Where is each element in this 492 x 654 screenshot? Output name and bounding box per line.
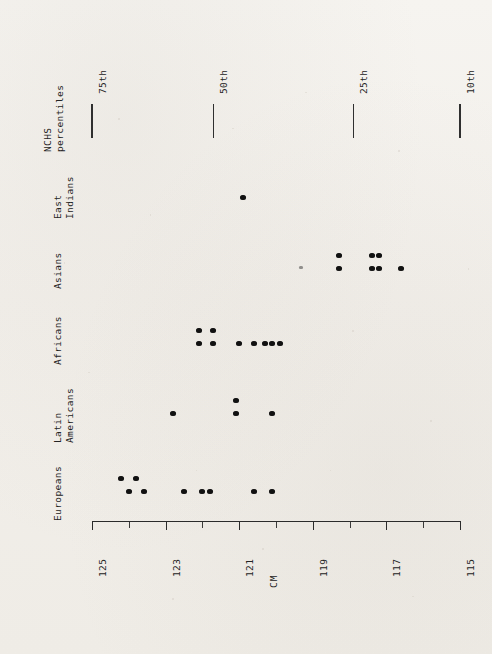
reference-group-label: NCHS [42, 128, 53, 152]
cm-axis-tick [202, 521, 203, 528]
data-point [336, 253, 342, 258]
group-label-east-indians: Indians [64, 176, 75, 219]
data-point [251, 341, 257, 346]
group-label-europeans: Europeans [52, 466, 63, 521]
cm-axis-tick [276, 521, 277, 528]
data-point [299, 266, 303, 270]
paper-speck [172, 598, 174, 600]
data-point [269, 411, 275, 416]
data-point [141, 489, 147, 494]
cm-axis-tick [386, 521, 387, 530]
group-label-latin-americans: Latin [52, 412, 63, 443]
percentile-marker-label: 10th [465, 70, 476, 94]
percentile-marker-line [213, 104, 214, 138]
data-point [210, 341, 216, 346]
data-point [233, 398, 239, 403]
data-point [118, 476, 124, 481]
paper-speck [412, 596, 414, 597]
data-point [126, 489, 132, 494]
group-label-latin-americans: Americans [64, 388, 75, 443]
data-point [262, 341, 268, 346]
paper-speck [232, 128, 234, 129]
cm-tick-label: 123 [171, 559, 182, 577]
paper-speck [398, 150, 400, 152]
data-point [376, 253, 382, 258]
cm-axis-title: CM [268, 575, 279, 588]
percentile-marker-line [459, 104, 460, 138]
data-point [369, 266, 375, 271]
cm-tick-label: 119 [318, 559, 329, 577]
paper-speck [64, 262, 65, 264]
percentile-marker-line [91, 104, 92, 138]
group-label-asians: Asians [52, 252, 63, 289]
data-point [269, 341, 275, 346]
cm-tick-label: 121 [244, 559, 255, 577]
cm-tick-label: 115 [465, 559, 476, 577]
cm-tick-label: 125 [97, 559, 108, 577]
data-point [369, 253, 375, 258]
percentile-marker-label: 75th [97, 70, 108, 94]
group-label-east-indians: East [52, 195, 63, 219]
cm-axis-tick [350, 521, 351, 528]
data-point [251, 489, 257, 494]
data-point [277, 341, 283, 346]
reference-group-label: percentiles [54, 85, 65, 152]
cm-axis-tick [166, 521, 167, 530]
paper-speck [150, 214, 151, 216]
scatter-plot: 125123121119117115CMEuropeansLatinAmeric… [0, 0, 492, 654]
cm-axis-endcap-right [460, 521, 461, 530]
data-point [207, 489, 213, 494]
paper-speck [305, 92, 307, 93]
paper-speck [262, 548, 264, 550]
cm-axis-tick [313, 521, 314, 530]
paper-speck [468, 268, 469, 270]
cm-axis-tick [129, 521, 130, 528]
data-point [196, 328, 202, 333]
paper-speck [118, 118, 120, 120]
percentile-marker-label: 25th [358, 70, 369, 94]
data-point [133, 476, 139, 481]
group-label-africans: Africans [52, 316, 63, 365]
data-point [196, 341, 202, 346]
data-point [376, 266, 382, 271]
paper-speck [352, 330, 354, 332]
paper-speck [196, 470, 197, 471]
data-point [336, 266, 342, 271]
data-point [181, 489, 187, 494]
data-point [240, 195, 246, 200]
cm-axis-tick [423, 521, 424, 528]
data-point [199, 489, 205, 494]
percentile-marker-line [353, 104, 354, 138]
percentile-marker-label: 50th [218, 70, 229, 94]
data-point [236, 341, 242, 346]
data-point [398, 266, 404, 271]
cm-axis-tick [239, 521, 240, 530]
paper-speck [430, 420, 432, 422]
data-point [233, 411, 239, 416]
cm-tick-label: 117 [391, 559, 402, 577]
cm-axis-endcap-left [92, 521, 93, 530]
data-point [269, 489, 275, 494]
data-point [210, 328, 216, 333]
data-point [170, 411, 176, 416]
paper-speck [88, 372, 90, 373]
paper-speck [330, 470, 331, 471]
